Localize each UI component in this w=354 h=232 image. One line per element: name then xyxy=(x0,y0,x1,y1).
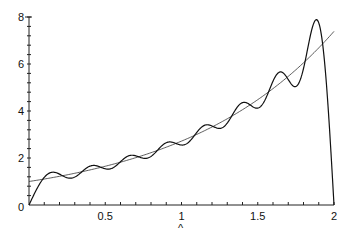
axis-marker: ^ xyxy=(178,222,184,232)
chart: 0.511.522468 0 ^ xyxy=(0,0,354,232)
x-tick-label: 2 xyxy=(331,210,337,222)
y-tick-label: 8 xyxy=(18,11,24,23)
x-tick-label: 0.5 xyxy=(98,210,113,222)
plot-area: 0.511.522468 0 ^ xyxy=(0,0,354,232)
exp-curve xyxy=(29,31,334,181)
y-tick-label: 6 xyxy=(18,58,24,70)
y-tick-label: 2 xyxy=(18,152,24,164)
x-tick-label: 1.5 xyxy=(250,210,265,222)
origin-label: 0 xyxy=(18,201,24,213)
y-tick-label: 4 xyxy=(18,105,24,117)
fourier-curve xyxy=(29,20,334,205)
axes: 0.511.522468 xyxy=(18,11,337,222)
x-tick-label: 1 xyxy=(178,210,184,222)
